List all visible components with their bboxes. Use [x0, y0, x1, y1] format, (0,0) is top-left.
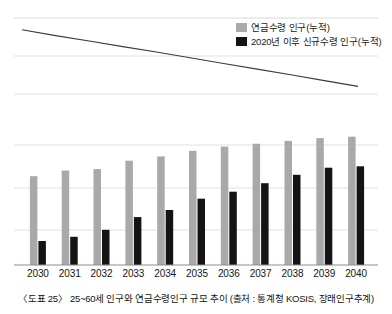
line-chart-panel — [0, 0, 392, 112]
legend-label-pension: 연금수령 인구(누적) — [251, 22, 330, 33]
bar-chart-svg — [0, 112, 392, 270]
chart-legend: 연금수령 인구(누적) 2020년 이후 신규수령 인구(누적) — [236, 21, 392, 49]
bar-new-2034 — [166, 210, 174, 265]
legend-label-new: 2020년 이후 신규수령 인구(누적) — [251, 36, 381, 47]
x-axis-labels: 2030203120322033203420352036203720382039… — [0, 268, 392, 284]
bar-new-2030 — [38, 241, 46, 265]
bar-pension-2033 — [125, 161, 132, 265]
bar-pension-2030 — [30, 176, 38, 265]
bar-new-2039 — [325, 168, 333, 265]
bar-groups — [30, 137, 364, 265]
bar-pension-2034 — [157, 156, 165, 265]
legend-item-pension: 연금수령 인구(누적) — [236, 21, 392, 34]
bar-pension-2037 — [253, 144, 261, 265]
bar-pension-2040 — [348, 137, 356, 265]
line-chart-svg — [0, 0, 392, 112]
legend-item-new: 2020년 이후 신규수령 인구(누적) — [236, 35, 392, 48]
figure-caption: 〈도표 25〉 25~60세 인구와 연금수령인구 규모 추이 (출처 : 통계… — [0, 292, 392, 305]
bar-pension-2032 — [94, 169, 102, 265]
bar-pension-2031 — [62, 171, 69, 266]
legend-swatch-gray — [236, 23, 247, 32]
figure-chart-25: 연금수령 인구(누적) 2020년 이후 신규수령 인구(누적) 2030203… — [0, 0, 392, 314]
bar-new-2032 — [102, 230, 110, 265]
bar-new-2036 — [229, 192, 237, 265]
bar-new-2035 — [198, 199, 206, 265]
x-tick-2040: 2040 — [336, 268, 376, 279]
bar-pension-2039 — [316, 138, 324, 265]
bar-new-2037 — [261, 183, 269, 265]
bar-pension-2035 — [189, 151, 197, 265]
bar-pension-2038 — [285, 141, 293, 265]
bar-new-2038 — [293, 175, 301, 265]
bar-chart-panel — [0, 112, 392, 270]
bar-pension-2036 — [221, 147, 229, 265]
bar-new-2040 — [357, 166, 365, 265]
bar-new-2031 — [70, 237, 78, 265]
legend-swatch-black — [236, 37, 247, 46]
bar-new-2033 — [134, 217, 142, 265]
